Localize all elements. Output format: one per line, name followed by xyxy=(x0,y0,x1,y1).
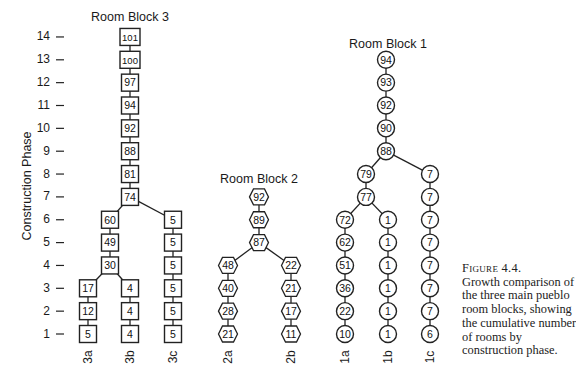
node-value: 11 xyxy=(286,328,297,340)
node-value: 21 xyxy=(285,282,297,294)
node-value: 1 xyxy=(385,305,391,317)
node-value: 72 xyxy=(339,214,351,226)
node-value: 93 xyxy=(380,76,392,88)
y-tick-label: 9 xyxy=(28,144,50,158)
node-value: 92 xyxy=(253,191,265,203)
node-value: 10 xyxy=(339,328,351,340)
node-value: 5 xyxy=(170,328,176,340)
node-value: 22 xyxy=(285,259,297,271)
node-value: 92 xyxy=(380,99,392,111)
node-value: 22 xyxy=(339,305,351,317)
node-value: 17 xyxy=(82,282,94,294)
node-value: 90 xyxy=(380,122,392,134)
node-value: 5 xyxy=(170,214,176,226)
block-title-room-block-1: Room Block 1 xyxy=(349,37,427,51)
node-value: 94 xyxy=(380,54,392,66)
y-tick-label: 13 xyxy=(28,52,50,66)
node-value: 1 xyxy=(385,236,391,248)
node-value: 101 xyxy=(122,32,138,43)
node-value: 5 xyxy=(170,259,176,271)
node-value: 81 xyxy=(124,168,136,180)
y-tick-label: 12 xyxy=(28,75,50,89)
node-value: 21 xyxy=(222,328,234,340)
node-value: 1 xyxy=(385,214,391,226)
node-value: 7 xyxy=(427,191,433,203)
y-tick-label: 14 xyxy=(28,29,50,43)
node-value: 7 xyxy=(427,305,433,317)
node-value: 60 xyxy=(104,214,116,226)
node-value: 79 xyxy=(360,168,372,180)
node-value: 5 xyxy=(170,236,176,248)
node-value: 30 xyxy=(104,259,116,271)
y-tick-label: 3 xyxy=(28,281,50,295)
y-tick-label: 5 xyxy=(28,235,50,249)
y-tick-label: 8 xyxy=(28,167,50,181)
node-value: 62 xyxy=(339,236,351,248)
node-value: 74 xyxy=(124,191,136,203)
node-value: 51 xyxy=(339,259,351,271)
node-value: 89 xyxy=(253,214,265,226)
figure-number: Figure 4.4. xyxy=(462,262,562,276)
node-value: 48 xyxy=(222,259,234,271)
caption-line: the three main pueblo xyxy=(462,289,562,303)
node-value: 28 xyxy=(222,305,234,317)
node-value: 88 xyxy=(380,145,392,157)
node-value: 7 xyxy=(427,214,433,226)
node-value: 97 xyxy=(124,76,136,88)
node-value: 7 xyxy=(427,236,433,248)
column-label-1a: 1a xyxy=(338,350,352,363)
y-tick-label: 1 xyxy=(28,327,50,341)
node-value: 5 xyxy=(85,328,91,340)
node-value: 4 xyxy=(127,282,133,294)
node-value: 1 xyxy=(385,259,391,271)
node-value: 5 xyxy=(170,305,176,317)
caption-line: Growth comparison of xyxy=(462,276,562,290)
y-tick-label: 6 xyxy=(28,212,50,226)
node-value: 6 xyxy=(427,328,433,340)
node-value: 92 xyxy=(124,122,136,134)
node-value: 88 xyxy=(124,145,136,157)
column-label-2b: 2b xyxy=(284,350,298,363)
y-tick-label: 7 xyxy=(28,189,50,203)
caption-line: of rooms by xyxy=(462,331,562,345)
y-tick-label: 10 xyxy=(28,121,50,135)
node-value: 36 xyxy=(339,282,351,294)
y-tick-label: 4 xyxy=(28,258,50,272)
node-value: 7 xyxy=(427,282,433,294)
column-label-3c: 3c xyxy=(166,351,180,364)
node-value: 49 xyxy=(104,236,116,248)
node-value: 7 xyxy=(427,168,433,180)
caption-line: construction phase. xyxy=(462,344,562,358)
column-label-1b: 1b xyxy=(381,350,395,363)
block-title-room-block-3: Room Block 3 xyxy=(91,10,169,24)
caption-line: the cumulative number xyxy=(462,317,562,331)
node-value: 4 xyxy=(127,305,133,317)
column-label-3a: 3a xyxy=(81,350,95,363)
node-value: 1 xyxy=(385,328,391,340)
block-title-room-block-2: Room Block 2 xyxy=(220,172,298,186)
caption-line: room blocks, showing xyxy=(462,303,562,317)
y-tick-label: 11 xyxy=(28,98,50,112)
column-label-2a: 2a xyxy=(221,350,235,363)
y-tick-label: 2 xyxy=(28,304,50,318)
node-value: 40 xyxy=(222,282,234,294)
node-value: 94 xyxy=(124,99,136,111)
node-value: 87 xyxy=(253,236,265,248)
node-value: 12 xyxy=(82,305,94,317)
node-value: 4 xyxy=(127,328,133,340)
node-value: 7 xyxy=(427,259,433,271)
figure-caption: Figure 4.4. Growth comparison of the thr… xyxy=(462,262,562,358)
node-value: 100 xyxy=(122,55,138,66)
column-label-3b: 3b xyxy=(123,350,137,363)
node-value: 17 xyxy=(285,305,297,317)
node-value: 5 xyxy=(170,282,176,294)
column-label-1c: 1c xyxy=(423,351,437,364)
node-value: 1 xyxy=(385,282,391,294)
node-value: 77 xyxy=(360,191,372,203)
